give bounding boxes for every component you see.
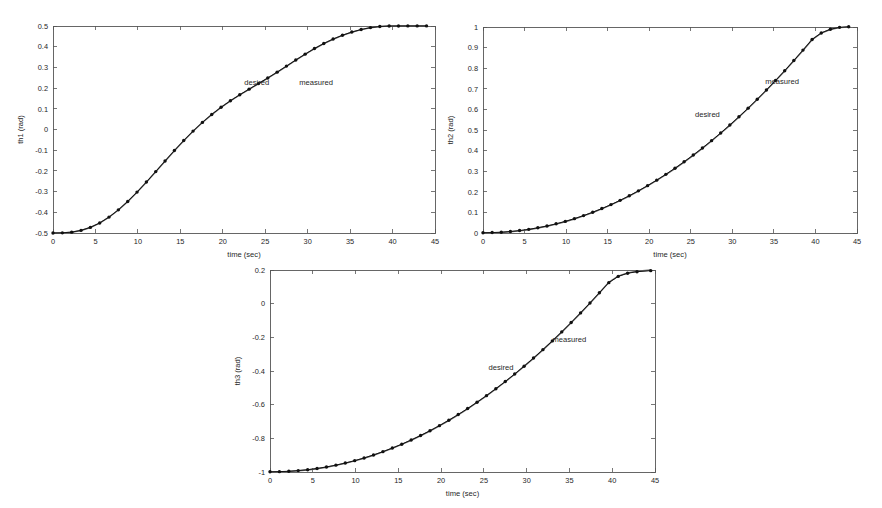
x-tick-label: 25 xyxy=(687,237,695,246)
y-tick-label: -1 xyxy=(258,468,265,477)
data-marker xyxy=(61,231,64,234)
data-marker xyxy=(344,461,347,464)
data-marker xyxy=(527,228,530,231)
y-tick-label: 0.2 xyxy=(255,266,265,275)
data-marker xyxy=(425,24,428,27)
y-tick-label: 0 xyxy=(44,125,48,134)
x-tick-label: 40 xyxy=(811,237,819,246)
data-marker xyxy=(201,121,204,124)
annotation-measured: measured xyxy=(553,335,587,344)
x-tick-label: 35 xyxy=(770,237,778,246)
data-marker xyxy=(682,160,685,163)
y-tick-label: -0.3 xyxy=(35,187,48,196)
chart-th1: 051015202530354045-0.5-0.4-0.3-0.2-0.100… xyxy=(0,0,460,262)
annotation-measured: measured xyxy=(299,78,333,87)
data-marker xyxy=(810,38,813,41)
x-tick-label: 35 xyxy=(346,237,354,246)
data-marker xyxy=(792,59,795,62)
data-marker xyxy=(801,48,804,51)
y-tick-label: -0.6 xyxy=(252,400,265,409)
plot-box xyxy=(270,270,655,472)
y-tick-label: 0.3 xyxy=(468,167,478,176)
series-measured xyxy=(53,26,427,233)
annotation-desired: desired xyxy=(695,110,720,119)
x-tick-label: 30 xyxy=(304,237,312,246)
axes-th2: 05101520253035404500.10.20.30.40.50.60.7… xyxy=(446,23,861,259)
y-tick-label: 0.2 xyxy=(38,84,48,93)
data-marker xyxy=(287,470,290,473)
y-tick-label: 0.9 xyxy=(468,43,478,52)
x-tick-label: 40 xyxy=(608,476,616,485)
x-tick-label: 5 xyxy=(93,237,97,246)
data-marker xyxy=(481,231,484,234)
data-marker xyxy=(331,37,334,40)
x-tick-label: 25 xyxy=(261,237,269,246)
data-marker xyxy=(322,42,325,45)
data-marker xyxy=(457,413,460,416)
data-marker xyxy=(294,58,297,61)
data-marker xyxy=(51,231,54,234)
data-marker xyxy=(541,348,544,351)
x-tick-label: 40 xyxy=(388,237,396,246)
data-marker xyxy=(247,87,250,90)
x-axis-label: time (sec) xyxy=(446,489,480,498)
y-tick-label: -0.2 xyxy=(252,333,265,342)
y-tick-label: 0.1 xyxy=(38,105,48,114)
x-tick-label: 10 xyxy=(134,237,142,246)
data-marker xyxy=(70,230,73,233)
plot-panel-th3: 051015202530354045-1-0.8-0.6-0.4-0.200.2… xyxy=(215,260,685,508)
data-marker xyxy=(415,24,418,27)
chart-th3: 051015202530354045-1-0.8-0.6-0.4-0.200.2… xyxy=(215,260,685,508)
data-marker xyxy=(829,28,832,31)
x-tick-label: 10 xyxy=(351,476,359,485)
data-marker xyxy=(145,180,148,183)
data-marker xyxy=(756,98,759,101)
x-tick-label: 30 xyxy=(728,237,736,246)
y-tick-label: -0.4 xyxy=(252,367,265,376)
data-marker xyxy=(163,159,166,162)
y-tick-label: 0.5 xyxy=(468,126,478,135)
data-marker xyxy=(372,453,375,456)
data-marker xyxy=(362,456,365,459)
data-marker xyxy=(428,429,431,432)
data-marker xyxy=(646,184,649,187)
chart-th2: 05101520253035404500.10.20.30.40.50.60.7… xyxy=(430,0,882,262)
y-tick-label: 0.8 xyxy=(468,64,478,73)
y-tick-label: 0.3 xyxy=(38,63,48,72)
series-desired xyxy=(483,27,849,233)
data-marker xyxy=(359,28,362,31)
data-marker xyxy=(838,26,841,29)
data-marker xyxy=(369,26,372,29)
data-marker xyxy=(438,424,441,427)
annotation-desired: desired xyxy=(489,363,514,372)
data-marker xyxy=(545,224,548,227)
data-marker xyxy=(626,272,629,275)
data-marker xyxy=(117,208,120,211)
y-tick-label: 1 xyxy=(474,23,478,32)
x-tick-label: 5 xyxy=(522,237,526,246)
y-tick-label: 0 xyxy=(474,229,478,238)
figure-canvas: 051015202530354045-0.5-0.4-0.3-0.2-0.100… xyxy=(0,0,882,508)
x-tick-label: 45 xyxy=(651,476,659,485)
data-marker xyxy=(490,231,493,234)
data-marker xyxy=(313,47,316,50)
data-marker xyxy=(637,189,640,192)
data-marker xyxy=(582,214,585,217)
annotation-measured: measured xyxy=(765,77,799,86)
y-tick-label: 0.7 xyxy=(468,85,478,94)
data-marker xyxy=(268,470,271,473)
data-marker xyxy=(378,25,381,28)
data-marker xyxy=(847,25,850,28)
y-tick-label: 0.4 xyxy=(38,42,48,51)
y-axis-label: th1 (rad) xyxy=(16,115,25,144)
data-marker xyxy=(536,226,539,229)
data-marker xyxy=(518,229,521,232)
data-marker xyxy=(475,401,478,404)
y-tick-label: -0.5 xyxy=(35,229,48,238)
x-tick-label: 0 xyxy=(51,237,55,246)
x-tick-label: 35 xyxy=(565,476,573,485)
data-marker xyxy=(598,291,601,294)
data-marker xyxy=(107,215,110,218)
data-marker xyxy=(238,93,241,96)
data-marker xyxy=(783,69,786,72)
